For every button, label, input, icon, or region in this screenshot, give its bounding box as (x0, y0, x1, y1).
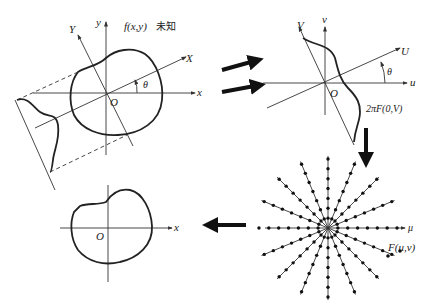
sample-point (375, 275, 378, 278)
sample-point (300, 163, 303, 166)
diagram-canvas: y Y X x O θ f(x,y) 未知 V v U u O θ 2πF(0,… (0, 0, 429, 301)
sample-point (385, 226, 388, 229)
sample-point (330, 217, 333, 220)
panel-reconstructed: x O (60, 185, 179, 282)
projection-ray-top (17, 72, 78, 100)
sample-point (366, 226, 369, 229)
sample-point (319, 208, 322, 211)
sample-point (326, 256, 329, 259)
projection-profile (17, 99, 58, 172)
sample-point (349, 172, 352, 175)
sample-point (326, 197, 329, 200)
sample-point (338, 199, 341, 202)
object-contour (71, 50, 163, 135)
sample-point (316, 226, 319, 229)
sample-point (353, 290, 356, 293)
sample-point (304, 172, 307, 175)
sample-point (341, 190, 344, 193)
sample-point (297, 226, 300, 229)
Y-axis-rotated (78, 35, 133, 146)
sample-point (333, 233, 336, 236)
sample-point (330, 235, 333, 238)
X-axis-rotated (35, 57, 186, 128)
sample-point (346, 226, 349, 229)
sample-point (319, 245, 322, 248)
sample-point (308, 219, 311, 222)
sample-point (315, 254, 318, 257)
label-V: V (297, 19, 305, 31)
sample-point (395, 226, 398, 229)
sample-point (354, 198, 357, 201)
sample-point (361, 191, 364, 194)
label-theta: θ (143, 79, 148, 90)
sample-point (372, 207, 375, 210)
projection-to-slice-arrow-1 (222, 60, 258, 70)
sample-point (307, 226, 310, 229)
sample-point (257, 226, 260, 229)
label-theta: θ (387, 66, 392, 77)
angle-arc (381, 62, 385, 83)
sample-point (356, 226, 359, 229)
sample-point (336, 226, 339, 229)
sample-point (326, 295, 329, 298)
sample-point (287, 226, 290, 229)
sample-point (281, 207, 284, 210)
sample-point (345, 272, 348, 275)
sample-point (312, 212, 315, 215)
sample-point (326, 236, 329, 239)
sample-point (347, 247, 350, 250)
sample-point (281, 245, 284, 248)
sample-point (390, 200, 393, 203)
panel-radial-samples: μ F(u,v) (257, 156, 415, 300)
sample-point (290, 241, 293, 244)
sample-point (326, 177, 329, 180)
sample-point (368, 184, 371, 187)
sample-point (372, 245, 375, 248)
reconstructed-contour (71, 190, 152, 264)
sample-point (291, 261, 294, 264)
sample-point (345, 219, 348, 222)
label-y: y (95, 16, 101, 28)
label-x: x (196, 86, 202, 98)
sample-point (277, 275, 280, 278)
sample-point (307, 272, 310, 275)
label-X: X (185, 52, 194, 64)
sample-point (326, 207, 329, 210)
sample-point (319, 219, 322, 222)
panel-frequency-slice: V v U u O θ 2πF(0,V) (263, 13, 416, 145)
sample-point (311, 190, 314, 193)
U-axis-rotated (267, 48, 400, 108)
sample-point (308, 234, 311, 237)
label-v: v (322, 13, 327, 25)
projection-baseline (15, 100, 55, 190)
sample-point (317, 230, 320, 233)
sample-point (334, 245, 337, 248)
sample-point (267, 226, 270, 229)
sample-point (326, 187, 329, 190)
sample-point (326, 285, 329, 288)
sample-point (335, 230, 338, 233)
label-function: f(x,y) (124, 20, 147, 33)
sample-point (272, 249, 275, 252)
label-U: U (401, 45, 410, 57)
sample-point (311, 263, 314, 266)
sample-point (345, 234, 348, 237)
sample-point (304, 281, 307, 284)
sample-point (300, 290, 303, 293)
sample-point (381, 249, 384, 252)
sample-point (340, 212, 343, 215)
sample-point (390, 253, 393, 256)
label-x: x (173, 221, 179, 233)
panel-spatial: y Y X x O θ f(x,y) 未知 (15, 16, 202, 190)
sample-point (354, 254, 357, 257)
label-u: u (410, 76, 416, 88)
sample-point (319, 233, 322, 236)
sample-point (326, 167, 329, 170)
sample-point (307, 181, 310, 184)
sample-point (326, 157, 329, 160)
sample-point (368, 268, 371, 271)
sample-point (299, 215, 302, 218)
sample-point (354, 215, 357, 218)
sample-point (291, 191, 294, 194)
sample-point (263, 253, 266, 256)
